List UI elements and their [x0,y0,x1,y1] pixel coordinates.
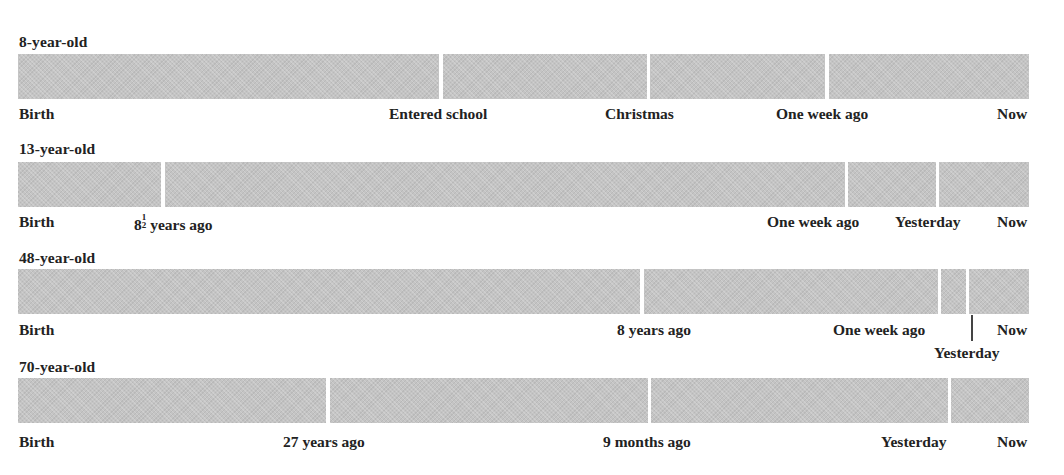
label-8-years-ago: 8 years ago [617,321,691,339]
label-one-week-ago: One week ago [776,105,868,123]
bar-segment [165,162,845,207]
timeline-bar-13-year-old [18,162,1029,207]
bar-segment [443,54,647,99]
label-birth: Birth [19,105,54,123]
bar-segment [644,269,938,314]
row-title-13-year-old: 13-year-old [19,140,95,158]
row-title-48-year-old: 48-year-old [19,249,95,267]
label-9-months-ago: 9 months ago [603,433,691,451]
label-yesterday: Yesterday [895,213,960,231]
label-christmas: Christmas [605,105,674,123]
label-one-week-ago: One week ago [767,213,859,231]
label-whole: 8 [134,216,142,233]
bar-segment [848,162,936,207]
label-yesterday: Yesterday [934,344,999,362]
timeline-bar-48-year-old [18,269,1029,314]
bar-segment [650,54,825,99]
label-now: Now [997,433,1027,451]
label-one-week-ago: One week ago [833,321,925,339]
label-now: Now [997,321,1027,339]
timeline-bar-8-year-old [18,54,1029,99]
bar-segment [829,54,1029,99]
bar-segment [651,378,948,423]
bar-segment [939,162,1029,207]
bar-segment [941,269,966,314]
label-27-years-ago: 27 years ago [283,433,365,451]
label-8-half-years-ago: 812 years ago [134,213,213,234]
label-now: Now [997,105,1027,123]
label-birth: Birth [19,321,54,339]
yesterday-pointer-line [971,315,973,341]
bar-segment [18,162,161,207]
bar-segment [18,269,640,314]
bar-segment [330,378,648,423]
row-title-8-year-old: 8-year-old [19,33,87,51]
label-now: Now [997,213,1027,231]
bar-segment [18,54,439,99]
timeline-bar-70-year-old [18,378,1029,423]
row-title-70-year-old: 70-year-old [19,358,95,376]
label-birth: Birth [19,213,54,231]
label-suffix: years ago [146,216,212,233]
label-birth: Birth [19,433,54,451]
bar-segment [951,378,1029,423]
label-yesterday: Yesterday [881,433,946,451]
bar-segment [18,378,326,423]
label-entered-school: Entered school [389,105,487,123]
bar-segment [969,269,1029,314]
